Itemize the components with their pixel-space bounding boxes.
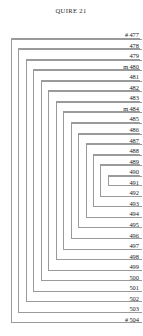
leaf-label: 495	[129, 221, 142, 229]
folio-number: 501	[129, 284, 139, 291]
leaf-label: m480	[123, 63, 142, 71]
leaf-row: m484	[63, 102, 142, 112]
leaf-row: #477	[11, 29, 142, 39]
leaf-label: 486	[129, 126, 142, 134]
leaf-label: 497	[129, 242, 142, 250]
folio-number: 490	[129, 168, 139, 175]
folio-number: 502	[129, 295, 139, 302]
quire-collation-diagram: QUIRE 21 #477478479m480481482483m4844854…	[0, 0, 142, 336]
folio-number: 484	[129, 105, 139, 112]
leaf-label: m484	[123, 105, 142, 113]
folio-number: 483	[129, 94, 139, 101]
leaf-label: 499	[129, 263, 142, 271]
folio-number: 499	[129, 263, 139, 270]
leaf-row: 490	[108, 166, 142, 176]
leaf-label: 503	[129, 305, 142, 313]
leaf-label: 481	[129, 73, 142, 81]
leaf-label: 496	[129, 232, 142, 240]
leaf-row: 486	[78, 124, 142, 134]
leaf-label: 490	[129, 168, 142, 176]
folio-number: 498	[129, 253, 139, 260]
leaf-row: 500	[41, 271, 142, 281]
folio-number: 477	[129, 31, 139, 38]
leaf-label: 492	[129, 189, 142, 197]
leaf-row: 499	[48, 261, 142, 271]
leaf-row: 482	[48, 81, 142, 91]
leaf-label: 500	[129, 274, 142, 282]
folio-number: 497	[129, 242, 139, 249]
leaf-label: 483	[129, 94, 142, 102]
leaf-row: 487	[86, 134, 143, 144]
leaf-label: 501	[129, 284, 142, 292]
leaf-row: 497	[63, 240, 142, 250]
leaf-row: 495	[78, 218, 142, 228]
leaf-row: 496	[71, 229, 142, 239]
folio-number: 478	[129, 42, 139, 49]
leaf-label: 493	[129, 200, 142, 208]
leaf-label: 479	[129, 52, 142, 60]
leaf-row: 483	[56, 92, 142, 102]
leaf-label: #504	[125, 316, 142, 324]
folio-number: 489	[129, 158, 139, 165]
folio-number: 485	[129, 115, 139, 122]
leaf-label: 494	[129, 210, 142, 218]
folio-number: 480	[129, 63, 139, 70]
folio-number: 486	[129, 126, 139, 133]
leaf-label: 485	[129, 115, 142, 123]
leaf-row: 481	[41, 71, 142, 81]
leaf-row: 493	[93, 197, 142, 207]
leaf-label: 498	[129, 253, 142, 261]
leaf-row: 492	[100, 187, 142, 197]
folio-number: 491	[129, 179, 139, 186]
folio-number: 503	[129, 305, 139, 312]
folio-number: 494	[129, 210, 139, 217]
leaf-row: 488	[93, 145, 142, 155]
leaf-row: 503	[18, 303, 142, 313]
leaf-label: 478	[129, 42, 142, 50]
leaf-row: 489	[100, 155, 142, 165]
leaf-row: 494	[86, 208, 143, 218]
folio-number: 495	[129, 221, 139, 228]
folio-number: 488	[129, 147, 139, 154]
leaf-row: 479	[26, 50, 142, 60]
folio-number: 493	[129, 200, 139, 207]
leaf-row: m480	[33, 60, 142, 70]
leaf-rule	[11, 322, 140, 323]
leaf-label: 488	[129, 147, 142, 155]
leaf-row: 502	[26, 292, 142, 302]
leaf-label: 487	[129, 137, 142, 145]
folio-number: 481	[129, 73, 139, 80]
folio-number: 487	[129, 137, 139, 144]
leaf-row: 498	[56, 250, 142, 260]
leaf-row: #504	[11, 313, 142, 323]
leaf-label: #477	[125, 31, 142, 39]
leaf-label: 482	[129, 84, 142, 92]
folio-number: 479	[129, 52, 139, 59]
folio-number: 492	[129, 189, 139, 196]
leaf-label: 502	[129, 295, 142, 303]
folio-number: 500	[129, 274, 139, 281]
leaf-label: 491	[129, 179, 142, 187]
leaf-row: 478	[18, 39, 142, 49]
leaf-label: 489	[129, 158, 142, 166]
folio-number: 482	[129, 84, 139, 91]
leaf-row-layer: #477478479m480481482483m4844854864874884…	[0, 0, 142, 336]
leaf-row: 485	[71, 113, 142, 123]
leaf-row: 501	[33, 282, 142, 292]
folio-number: 504	[129, 316, 139, 323]
leaf-row: 491	[108, 176, 142, 186]
folio-number: 496	[129, 232, 139, 239]
